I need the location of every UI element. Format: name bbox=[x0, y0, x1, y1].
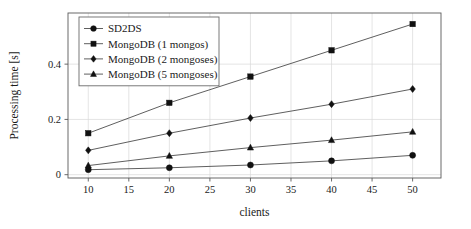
y-tick-label: 0.2 bbox=[48, 114, 61, 125]
legend: SD2DSMongoDB (1 mongos)MongoDB (2 mongos… bbox=[79, 17, 219, 86]
x-axis-ticks: 101520253035404550 bbox=[83, 178, 418, 195]
x-tick-label: 50 bbox=[407, 184, 418, 195]
marker-diamond bbox=[329, 101, 334, 108]
chart-figure: 101520253035404550 00.20.4 SD2DSMongoDB … bbox=[0, 0, 471, 229]
x-tick-label: 45 bbox=[367, 184, 378, 195]
y-axis-ticks: 00.20.4 bbox=[48, 59, 68, 181]
x-tick-label: 25 bbox=[205, 184, 216, 195]
marker-square bbox=[167, 100, 172, 105]
x-tick-label: 40 bbox=[326, 184, 337, 195]
marker-circle bbox=[166, 165, 172, 171]
marker-square bbox=[410, 21, 415, 26]
y-axis-label: Processing time [s] bbox=[8, 51, 21, 139]
marker-circle bbox=[329, 158, 335, 164]
x-tick-label: 35 bbox=[286, 184, 297, 195]
marker-square bbox=[86, 131, 91, 136]
marker-circle bbox=[247, 162, 253, 168]
marker-circle bbox=[91, 26, 97, 32]
x-tick-label: 10 bbox=[83, 184, 94, 195]
marker-diamond bbox=[167, 130, 172, 137]
marker-diamond bbox=[410, 86, 415, 93]
marker-triangle bbox=[409, 128, 415, 134]
x-tick-label: 30 bbox=[245, 184, 256, 195]
legend-item-label: MongoDB (1 mongos) bbox=[108, 38, 209, 51]
marker-diamond bbox=[248, 115, 253, 122]
x-tick-label: 15 bbox=[124, 184, 135, 195]
marker-square bbox=[248, 74, 253, 79]
marker-square bbox=[91, 41, 96, 46]
legend-item-label: SD2DS bbox=[108, 22, 142, 34]
y-tick-label: 0 bbox=[56, 169, 61, 180]
marker-diamond bbox=[86, 147, 91, 154]
legend-item-label: MongoDB (5 mongoses) bbox=[108, 68, 218, 81]
marker-square bbox=[329, 48, 334, 53]
line-chart: 101520253035404550 00.20.4 SD2DSMongoDB … bbox=[0, 0, 471, 229]
x-axis-label: clients bbox=[239, 206, 270, 218]
marker-circle bbox=[410, 152, 416, 158]
legend-item-label: MongoDB (2 mongoses) bbox=[108, 53, 218, 66]
x-tick-label: 20 bbox=[164, 184, 175, 195]
y-tick-label: 0.4 bbox=[48, 59, 62, 70]
